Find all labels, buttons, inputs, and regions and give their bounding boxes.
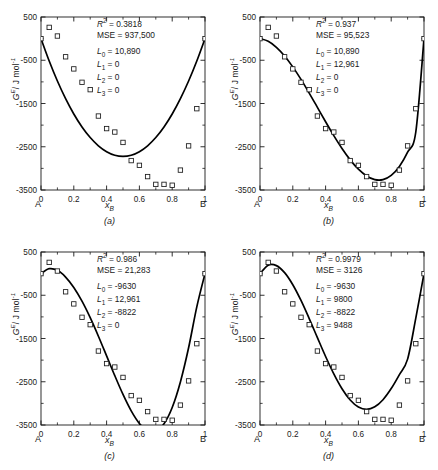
- L2-value-a: 0: [115, 72, 120, 82]
- svg-text:-2500: -2500: [235, 143, 256, 152]
- L0-value-d: -9630: [334, 281, 355, 291]
- x-axis-label-a: xB: [0, 200, 219, 212]
- y-axis-label-b: GE/ J mol-1: [228, 29, 242, 129]
- y-axis-label-a: GE/ J mol-1: [9, 29, 23, 129]
- y-axis-label-d: GE/ J mol-1: [228, 264, 242, 364]
- svg-text:500: 500: [242, 13, 256, 22]
- svg-text:-500: -500: [21, 291, 38, 300]
- L2-value-d: -8822: [334, 307, 355, 317]
- L1-value-d: 9800: [334, 294, 353, 304]
- L0-value-c: -9630: [115, 281, 136, 291]
- L0-value-b: 10,890: [334, 46, 360, 56]
- L0-value-a: 10,890: [115, 46, 141, 56]
- panel-caption-b: (b): [219, 216, 438, 226]
- L3-value-d: 9488: [334, 320, 353, 330]
- svg-text:500: 500: [242, 248, 256, 257]
- svg-text:-500: -500: [240, 56, 257, 65]
- svg-text:-500: -500: [240, 291, 257, 300]
- L3-value-b: 0: [334, 85, 339, 95]
- r2-value-a: 0.3818: [116, 19, 142, 29]
- x-axis-label-d: xB: [219, 435, 438, 447]
- svg-text:-3500: -3500: [16, 186, 37, 195]
- svg-text:-2500: -2500: [16, 378, 37, 387]
- svg-text:-2500: -2500: [16, 143, 37, 152]
- panel-caption-d: (d): [219, 451, 438, 461]
- stats-block-a: R2 = 0.3818 MSE = 937,500 L0 = 10,890 L1…: [88, 17, 206, 98]
- panel-d: 00.20.40.60.81500-500-1500-2500-3500 GE/…: [219, 235, 438, 470]
- mse-value-b: 95,523: [344, 30, 370, 40]
- svg-text:-500: -500: [21, 56, 38, 65]
- panel-caption-a: (a): [0, 216, 219, 226]
- x-axis-label-b: xB: [219, 200, 438, 212]
- r2-value-c: 0.986: [116, 254, 137, 264]
- panel-b: 00.20.40.60.81500-500-1500-2500-3500 GE/…: [219, 0, 438, 235]
- svg-text:-3500: -3500: [235, 186, 256, 195]
- L1-value-a: 0: [115, 59, 120, 69]
- L3-value-a: 0: [115, 85, 120, 95]
- r2-value-d: 0.9979: [335, 254, 361, 264]
- panel-c: 00.20.40.60.81500-500-1500-2500-3500 GE/…: [0, 235, 219, 470]
- mse-value-c: 21,283: [125, 265, 151, 275]
- r2-value-b: 0.937: [335, 19, 356, 29]
- svg-text:500: 500: [23, 13, 37, 22]
- stats-block-d: R2 = 0.9979 MSE = 3126 L0 = -9630 L1 = 9…: [307, 252, 425, 333]
- L2-value-b: 0: [334, 72, 339, 82]
- panel-caption-c: (c): [0, 451, 219, 461]
- svg-text:-3500: -3500: [235, 421, 256, 430]
- mse-value-d: 3126: [344, 265, 363, 275]
- stats-block-b: R2 = 0.937 MSE = 95,523 L0 = 10,890 L1 =…: [307, 17, 425, 98]
- svg-text:-2500: -2500: [235, 378, 256, 387]
- y-axis-label-c: GE/ J mol-1: [9, 264, 23, 364]
- L1-value-b: 12,961: [334, 59, 360, 69]
- panel-a: 00.20.40.60.81500-500-1500-2500-3500 GE/…: [0, 0, 219, 235]
- L1-value-c: 12,961: [115, 294, 141, 304]
- svg-text:-3500: -3500: [16, 421, 37, 430]
- L3-value-c: 0: [115, 320, 120, 330]
- svg-text:500: 500: [23, 248, 37, 257]
- figure-root: 00.20.40.60.81500-500-1500-2500-3500 GE/…: [0, 0, 438, 470]
- mse-value-a: 937,500: [125, 30, 155, 40]
- stats-block-c: R2 = 0.986 MSE = 21,283 L0 = -9630 L1 = …: [88, 252, 206, 333]
- x-axis-label-c: xB: [0, 435, 219, 447]
- L2-value-c: -8822: [115, 307, 136, 317]
